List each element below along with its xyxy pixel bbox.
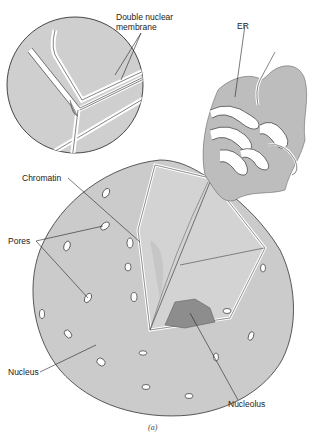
nucleus-diagram: Double nuclear membrane ER Chromatin Por… xyxy=(0,0,312,438)
magnified-inset xyxy=(7,17,152,160)
label-pores: Pores xyxy=(8,236,30,246)
label-chromatin: Chromatin xyxy=(22,173,61,183)
label-nucleus: Nucleus xyxy=(8,367,39,377)
label-nucleolus: Nucleolus xyxy=(228,399,265,409)
label-er: ER xyxy=(237,21,249,31)
label-line-2: membrane xyxy=(116,22,173,32)
endoplasmic-reticulum xyxy=(203,52,307,201)
label-double-nuclear-membrane: Double nuclear membrane xyxy=(116,12,173,32)
label-line-1: Double nuclear xyxy=(116,12,173,22)
figure-caption: (a) xyxy=(148,423,157,432)
